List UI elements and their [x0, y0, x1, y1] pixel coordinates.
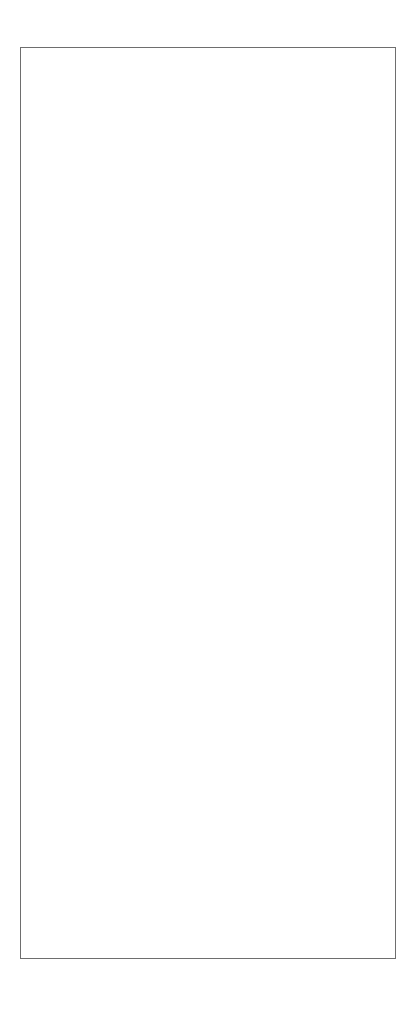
figure-caption	[20, 986, 396, 1010]
figure-root	[0, 0, 411, 1010]
figure-outer-border	[20, 47, 396, 959]
